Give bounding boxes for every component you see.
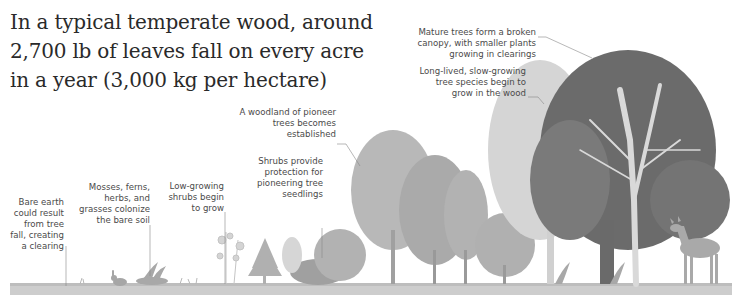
label-slow-growing: Long-lived, slow-growing tree species be…: [419, 66, 526, 99]
label-shrubs-protection: Shrubs provide protection for pioneering…: [257, 156, 323, 200]
label-mosses: Mosses, ferns, herbs, and grasses coloni…: [79, 182, 150, 226]
leader-mature: [538, 37, 592, 58]
young-pine-icon: [248, 238, 282, 284]
succession-illustration: [0, 0, 742, 301]
fern-cluster-icon: [136, 262, 168, 285]
ground-strip: [10, 285, 732, 295]
label-bare-earth: Bare earth could result from tree fall, …: [10, 197, 64, 252]
label-low-shrubs: Low-growing shrubs begin to grow: [168, 181, 224, 214]
shrub-icon: [282, 229, 366, 285]
label-mature-canopy: Mature trees form a broken canopy, with …: [417, 27, 536, 60]
sapling-shrub-icon: [217, 232, 244, 284]
label-pioneer-woodland: A woodland of pioneer trees becomes esta…: [239, 107, 336, 140]
